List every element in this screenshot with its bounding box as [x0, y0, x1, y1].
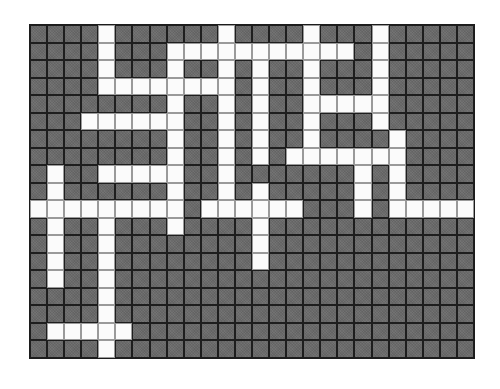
- grid-cell-open[interactable]: [252, 148, 269, 166]
- grid-cell-open[interactable]: [252, 253, 269, 271]
- grid-cell-open[interactable]: [252, 113, 269, 131]
- grid-cell-open[interactable]: [64, 323, 81, 341]
- grid-cell-open[interactable]: [98, 288, 115, 306]
- grid-cell-open[interactable]: [47, 323, 64, 341]
- grid-cell-open[interactable]: [98, 200, 115, 218]
- grid-cell-open[interactable]: [81, 200, 98, 218]
- grid-cell-open[interactable]: [47, 218, 64, 236]
- grid-cell-open[interactable]: [30, 200, 47, 218]
- grid-cell-open[interactable]: [132, 200, 149, 218]
- grid-cell-open[interactable]: [372, 78, 389, 96]
- grid-cell-open[interactable]: [98, 43, 115, 61]
- grid-cell-open[interactable]: [252, 60, 269, 78]
- grid-cell-open[interactable]: [184, 78, 201, 96]
- grid-cell-open[interactable]: [98, 113, 115, 131]
- grid-cell-open[interactable]: [235, 200, 252, 218]
- grid-cell-open[interactable]: [372, 113, 389, 131]
- grid-cell-open[interactable]: [252, 43, 269, 61]
- grid-cell-open[interactable]: [337, 148, 354, 166]
- grid-cell-open[interactable]: [372, 43, 389, 61]
- grid-cell-open[interactable]: [252, 200, 269, 218]
- grid-cell-open[interactable]: [81, 113, 98, 131]
- grid-cell-open[interactable]: [303, 43, 320, 61]
- grid-cell-open[interactable]: [354, 183, 371, 201]
- grid-cell-open[interactable]: [235, 43, 252, 61]
- grid-cell-open[interactable]: [47, 253, 64, 271]
- grid-cell-open[interactable]: [389, 148, 406, 166]
- grid-cell-open[interactable]: [201, 200, 218, 218]
- grid-cell-open[interactable]: [303, 113, 320, 131]
- grid-cell-open[interactable]: [167, 148, 184, 166]
- grid-cell-open[interactable]: [320, 43, 337, 61]
- grid-cell-open[interactable]: [98, 218, 115, 236]
- grid-cell-open[interactable]: [98, 340, 115, 358]
- grid-cell-open[interactable]: [47, 200, 64, 218]
- grid-cell-open[interactable]: [115, 113, 132, 131]
- grid-cell-open[interactable]: [389, 200, 406, 218]
- grid-cell-open[interactable]: [98, 78, 115, 96]
- grid-cell-open[interactable]: [218, 113, 235, 131]
- grid-cell-open[interactable]: [81, 323, 98, 341]
- grid-cell-open[interactable]: [167, 95, 184, 113]
- grid-cell-open[interactable]: [98, 235, 115, 253]
- grid-cell-open[interactable]: [269, 200, 286, 218]
- grid-cell-open[interactable]: [303, 130, 320, 148]
- grid-cell-open[interactable]: [201, 78, 218, 96]
- grid-cell-open[interactable]: [406, 200, 423, 218]
- grid-cell-open[interactable]: [372, 60, 389, 78]
- grid-cell-open[interactable]: [286, 148, 303, 166]
- grid-cell-open[interactable]: [115, 323, 132, 341]
- grid-cell-open[interactable]: [184, 43, 201, 61]
- grid-cell-open[interactable]: [98, 305, 115, 323]
- grid-cell-open[interactable]: [167, 60, 184, 78]
- grid-cell-open[interactable]: [218, 95, 235, 113]
- grid-cell-open[interactable]: [167, 218, 184, 236]
- grid-cell-open[interactable]: [372, 25, 389, 43]
- grid-cell-open[interactable]: [167, 130, 184, 148]
- grid-cell-open[interactable]: [47, 165, 64, 183]
- grid-cell-open[interactable]: [150, 78, 167, 96]
- grid-cell-open[interactable]: [115, 78, 132, 96]
- grid-cell-open[interactable]: [457, 200, 474, 218]
- grid-cell-open[interactable]: [98, 25, 115, 43]
- grid-cell-open[interactable]: [132, 165, 149, 183]
- grid-cell-open[interactable]: [132, 113, 149, 131]
- grid-cell-open[interactable]: [320, 95, 337, 113]
- grid-cell-open[interactable]: [47, 270, 64, 288]
- grid-cell-open[interactable]: [64, 200, 81, 218]
- grid-cell-open[interactable]: [218, 165, 235, 183]
- grid-cell-open[interactable]: [115, 200, 132, 218]
- grid-cell-open[interactable]: [372, 148, 389, 166]
- grid-cell-open[interactable]: [218, 78, 235, 96]
- grid-cell-open[interactable]: [303, 25, 320, 43]
- grid-cell-open[interactable]: [218, 60, 235, 78]
- grid-cell-open[interactable]: [150, 200, 167, 218]
- grid-cell-open[interactable]: [167, 78, 184, 96]
- grid-cell-open[interactable]: [303, 95, 320, 113]
- grid-cell-open[interactable]: [218, 183, 235, 201]
- grid-cell-open[interactable]: [201, 43, 218, 61]
- grid-cell-open[interactable]: [218, 130, 235, 148]
- grid-cell-open[interactable]: [354, 148, 371, 166]
- grid-cell-open[interactable]: [320, 148, 337, 166]
- grid-cell-open[interactable]: [132, 78, 149, 96]
- grid-cell-open[interactable]: [389, 165, 406, 183]
- grid-cell-open[interactable]: [252, 235, 269, 253]
- grid-cell-open[interactable]: [218, 25, 235, 43]
- grid-cell-open[interactable]: [167, 183, 184, 201]
- grid-cell-open[interactable]: [423, 200, 440, 218]
- grid-cell-open[interactable]: [303, 60, 320, 78]
- grid-cell-open[interactable]: [150, 113, 167, 131]
- grid-cell-open[interactable]: [98, 253, 115, 271]
- grid-cell-open[interactable]: [354, 200, 371, 218]
- grid-cell-open[interactable]: [252, 78, 269, 96]
- grid-cell-open[interactable]: [98, 165, 115, 183]
- grid-cell-open[interactable]: [286, 43, 303, 61]
- grid-cell-open[interactable]: [303, 78, 320, 96]
- grid-cell-open[interactable]: [47, 235, 64, 253]
- grid-cell-open[interactable]: [98, 270, 115, 288]
- grid-cell-open[interactable]: [167, 165, 184, 183]
- grid-cell-open[interactable]: [337, 43, 354, 61]
- grid-cell-open[interactable]: [389, 183, 406, 201]
- grid-cell-open[interactable]: [252, 95, 269, 113]
